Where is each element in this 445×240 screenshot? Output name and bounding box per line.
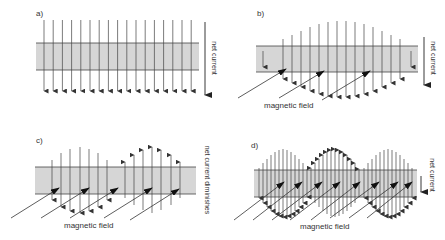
panel-d: d)net currentmagnetic field <box>234 141 436 231</box>
panel-label: d) <box>251 141 258 150</box>
panel-a: a)net current <box>36 9 218 95</box>
panels-root: a)net currentb)net currentmagnetic field… <box>11 9 437 231</box>
conductor-band <box>254 170 417 197</box>
magnetic-field-label: magnetic field <box>300 222 349 231</box>
diagram-canvas: a)net currentb)net currentmagnetic field… <box>0 0 445 240</box>
panel-label: b) <box>257 9 264 18</box>
panel-label: a) <box>36 9 43 18</box>
magnetic-field-arrow <box>238 69 286 98</box>
net-current-label: net current <box>211 41 218 75</box>
net-current-label: net current <box>430 41 437 75</box>
net-current-label: net current <box>429 158 436 192</box>
panel-label: c) <box>36 136 43 145</box>
panel-c: c)net current diminishesmagnetic field <box>11 136 211 230</box>
magnetic-field-label: magnetic field <box>264 101 313 110</box>
magnetic-field-arrows <box>238 69 370 100</box>
net-current-label: net current diminishes <box>204 146 211 215</box>
magnetic-field-label: magnetic field <box>64 221 113 230</box>
panel-b: b)net currentmagnetic field <box>238 9 437 110</box>
magnetic-field-arrow <box>279 71 324 98</box>
